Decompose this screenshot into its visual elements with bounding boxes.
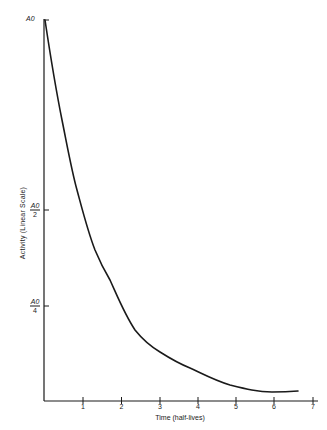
- x-axis-label: Time (half-lives): [155, 414, 205, 421]
- y-axis-label: Activity (Linear Scale): [19, 187, 26, 259]
- y-label-a0-quarter: A0 4: [30, 298, 40, 315]
- y-label-half-num: A0: [30, 202, 40, 210]
- x-tick-label-3: 3: [158, 403, 162, 410]
- y-label-a0: A0: [26, 15, 35, 22]
- x-tick-label-7: 7: [311, 403, 315, 410]
- x-tick-label-5: 5: [234, 403, 238, 410]
- y-label-quarter-num: A0: [30, 298, 40, 306]
- y-label-a0-half: A0 2: [30, 202, 40, 219]
- y-label-quarter-den: 4: [30, 307, 40, 315]
- decay-chart: [0, 0, 327, 430]
- x-tick-label-2: 2: [120, 403, 124, 410]
- y-label-half-den: 2: [30, 211, 40, 219]
- x-tick-label-1: 1: [81, 403, 85, 410]
- decay-curve: [45, 20, 298, 392]
- x-tick-label-6: 6: [272, 403, 276, 410]
- x-tick-label-4: 4: [196, 403, 200, 410]
